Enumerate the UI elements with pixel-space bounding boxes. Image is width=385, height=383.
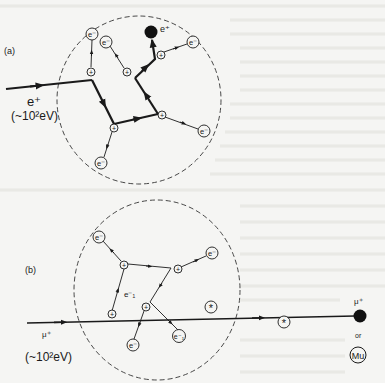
svg-text:e⁻: e⁻ [208, 249, 216, 258]
electron-tracks-a [91, 40, 198, 157]
excited-state-1: * [205, 301, 217, 314]
ion-a-2: + [123, 68, 131, 76]
muonium-node: Mu [350, 347, 366, 363]
electron-a-2: e⁻ [100, 36, 112, 48]
svg-text:e⁻: e⁻ [129, 341, 137, 350]
svg-text:+: + [122, 262, 126, 269]
thermal-muon-label: μ⁺ [354, 297, 363, 306]
svg-text:+: + [160, 112, 164, 119]
svg-text:+: + [176, 266, 180, 273]
ion-a-4: + [110, 124, 118, 132]
secondary-electron-e1: e⁻₁ [173, 330, 186, 343]
svg-text:e⁻: e⁻ [189, 38, 197, 47]
ion-b-4: + [142, 303, 150, 311]
muon-track [27, 316, 355, 323]
incoming-muon-energy: (~10²eV) [25, 350, 72, 364]
electron-a-5: e⁻ [198, 125, 210, 137]
ion-a-3: + [157, 51, 165, 59]
electron-b-1: e⁻ [93, 231, 105, 243]
svg-text:e⁻: e⁻ [97, 159, 105, 168]
ion-b-1: + [108, 310, 116, 318]
svg-text:e⁻₁: e⁻₁ [174, 333, 185, 340]
svg-text:+: + [159, 52, 163, 59]
incoming-positron-energy: (~10²eV) [11, 109, 58, 123]
svg-text:+: + [125, 69, 129, 76]
diagram-canvas: (a) [0, 0, 385, 383]
svg-text:e⁻: e⁻ [102, 38, 110, 47]
svg-text:Mu: Mu [352, 351, 365, 361]
secondary-electron-path-label: e⁻₁ [124, 290, 135, 299]
svg-text:+: + [144, 304, 148, 311]
ion-a-5: + [158, 111, 166, 119]
panel-a: (a) [4, 16, 221, 184]
svg-text:*: * [282, 317, 287, 329]
ion-a-1: + [87, 68, 95, 76]
electron-a-4: e⁻ [95, 157, 107, 169]
thermal-positron-label: e⁺ [160, 24, 170, 34]
secondary-electron-path [103, 241, 206, 339]
svg-text:e⁻: e⁻ [200, 127, 208, 136]
svg-text:e⁻: e⁻ [95, 233, 103, 242]
panel-b-label: (b) [25, 265, 36, 275]
panel-b: (b) [25, 200, 367, 380]
incoming-muon-label: μ⁺ [42, 330, 51, 339]
incoming-positron-label: e⁺ [27, 94, 41, 109]
thermal-positron-dot [145, 26, 158, 39]
figure: (a) [0, 0, 385, 383]
electron-a-3: e⁻ [187, 36, 199, 48]
thermal-muon-dot [354, 310, 367, 323]
ion-b-3: + [174, 265, 182, 273]
excited-state-2: * [278, 316, 290, 329]
ion-b-2: + [120, 261, 128, 269]
svg-text:+: + [110, 311, 114, 318]
svg-text:e⁻: e⁻ [88, 30, 96, 39]
panel-a-label: (a) [4, 46, 15, 56]
electron-b-3: e⁻ [127, 339, 139, 351]
svg-text:*: * [209, 302, 214, 314]
or-text: or [355, 332, 362, 339]
svg-text:+: + [112, 125, 116, 132]
electron-b-2: e⁻ [206, 247, 218, 259]
svg-text:+: + [89, 69, 93, 76]
electron-a-1: e⁻ [86, 28, 98, 40]
